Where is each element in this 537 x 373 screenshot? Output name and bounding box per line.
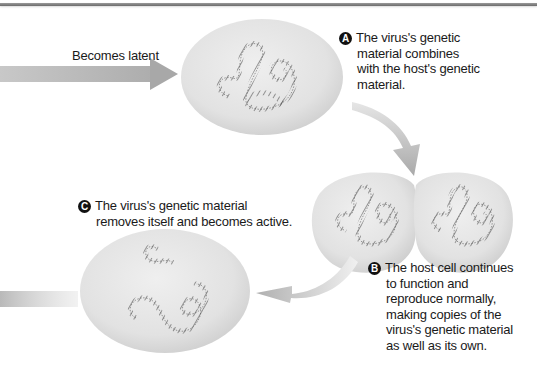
activated-host-cell [80, 229, 250, 353]
step-b-line-3: reproduce normally, [368, 291, 513, 307]
step-c-line-2: removes itself and becomes active. [78, 214, 292, 230]
dividing-host-cell-right [414, 173, 513, 273]
step-a-line-3: with the host's genetic [339, 61, 480, 77]
step-a-badge: A [339, 32, 352, 45]
step-a-line-4: material. [339, 77, 480, 93]
outgoing-arrow [0, 291, 78, 307]
step-b-line-1: The host cell continues [385, 260, 513, 275]
dividing-host-cell-left [312, 173, 417, 273]
becomes-latent-label: Becomes latent [72, 48, 159, 64]
step-a-line-2: material combines [339, 46, 480, 62]
step-c-badge: C [78, 200, 91, 213]
step-a-caption: AThe virus's genetic material combines w… [339, 30, 480, 92]
step-a-line-1: The virus's genetic [356, 30, 460, 45]
step-b-line-4: making copies of the [368, 307, 513, 323]
latent-host-cell [181, 19, 343, 135]
step-b-badge: B [368, 262, 381, 275]
step-b-line-5: virus's genetic material [368, 322, 513, 338]
curved-arrow-to-division [352, 102, 420, 176]
step-b-caption: BThe host cell continues to function and… [368, 260, 513, 353]
step-b-line-6: as well as its own. [368, 338, 513, 354]
step-c-line-1: The virus's genetic material [95, 198, 247, 213]
step-b-line-2: to function and [368, 276, 513, 292]
step-c-caption: CThe virus's genetic material removes it… [78, 198, 292, 229]
